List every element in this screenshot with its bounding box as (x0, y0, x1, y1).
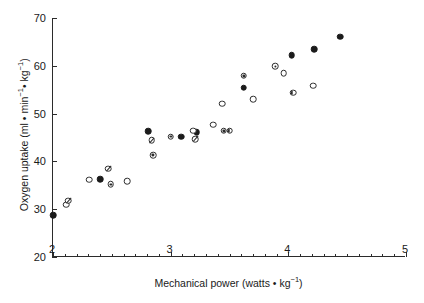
x-tick-minor (124, 254, 125, 257)
plot-area (52, 18, 405, 257)
data-point-crossed (192, 136, 199, 143)
data-point-filled (178, 133, 185, 140)
y-tick-major (52, 161, 57, 162)
data-point-filled (337, 33, 344, 40)
x-tick-label: 2 (49, 243, 55, 255)
x-tick-minor (135, 254, 136, 257)
data-point-crossed (105, 165, 112, 172)
data-point-filled (289, 52, 296, 59)
x-tick-minor (206, 254, 207, 257)
data-point-dotted (240, 73, 247, 80)
data-point-dotted (107, 181, 114, 188)
data-point-dotted (150, 152, 157, 159)
scatter-plot-figure: 2345 203040506070 Mechanical power (watt… (0, 0, 424, 303)
data-point-open (250, 96, 257, 103)
x-tick-minor (253, 254, 254, 257)
x-tick-minor (382, 254, 383, 257)
x-tick-label: 5 (402, 243, 408, 255)
x-tick-minor (230, 254, 231, 257)
x-tick-minor (147, 254, 148, 257)
data-point-filled (311, 46, 318, 53)
data-point-open (310, 83, 317, 90)
x-tick-minor (194, 254, 195, 257)
x-tick-minor (241, 254, 242, 257)
x-tick-minor (371, 254, 372, 257)
data-point-open (280, 70, 287, 77)
data-point-filled (145, 128, 152, 135)
x-tick-minor (277, 254, 278, 257)
x-tick-minor (100, 254, 101, 257)
data-point-dotted (167, 133, 174, 140)
x-tick-minor (300, 254, 301, 257)
y-tick-label: 20 (20, 251, 46, 263)
data-point-open (210, 121, 217, 128)
data-point-crossed (65, 197, 72, 204)
y-tick-major (52, 257, 57, 258)
x-tick-minor (218, 254, 219, 257)
y-tick-major (52, 66, 57, 67)
x-tick-minor (324, 254, 325, 257)
x-tick-minor (312, 254, 313, 257)
x-axis-title: Mechanical power (watts • kg−1) (52, 275, 405, 289)
x-tick-label: 3 (167, 243, 173, 255)
data-point-open (219, 100, 226, 107)
data-point-open (124, 178, 131, 185)
data-point-open (86, 176, 93, 183)
data-point-half (290, 89, 297, 96)
x-tick-minor (335, 254, 336, 257)
data-point-filled (50, 212, 57, 219)
data-point-open (190, 128, 197, 135)
x-tick-minor (265, 254, 266, 257)
x-tick-minor (182, 254, 183, 257)
y-axis-title: Oxygen uptake (ml • min−1• kg−1) (16, 20, 30, 250)
y-tick-major (52, 114, 57, 115)
x-tick-minor (77, 254, 78, 257)
data-point-half (226, 128, 233, 135)
data-point-crossed (149, 137, 156, 144)
x-tick-minor (88, 254, 89, 257)
data-point-dotted (272, 63, 279, 70)
x-tick-minor (159, 254, 160, 257)
data-point-filled (97, 176, 104, 183)
x-tick-minor (112, 254, 113, 257)
x-tick-minor (347, 254, 348, 257)
x-tick-minor (359, 254, 360, 257)
data-point-filled (240, 84, 247, 91)
x-tick-minor (394, 254, 395, 257)
x-tick-label: 4 (284, 243, 290, 255)
x-tick-minor (65, 254, 66, 257)
y-tick-major (52, 209, 57, 210)
y-tick-major (52, 18, 57, 19)
